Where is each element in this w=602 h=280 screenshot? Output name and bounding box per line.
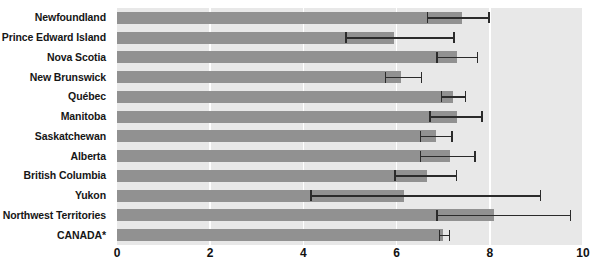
category-label: Québec bbox=[0, 91, 106, 102]
error-bar bbox=[427, 12, 490, 23]
error-bar-line bbox=[345, 37, 455, 39]
error-bar-cap-low bbox=[385, 72, 387, 83]
category-label: Nova Scotia bbox=[0, 52, 106, 63]
category-label: Northwest Territories bbox=[0, 210, 106, 221]
value-axis: 0246810 bbox=[117, 247, 583, 273]
plot-area bbox=[117, 8, 583, 245]
gridline-10 bbox=[582, 8, 584, 245]
x-tick-label: 0 bbox=[114, 247, 121, 259]
error-bar bbox=[429, 111, 483, 122]
x-tick-label: 6 bbox=[393, 247, 400, 259]
bar bbox=[117, 71, 401, 83]
error-bar bbox=[436, 52, 478, 63]
error-bar bbox=[439, 230, 451, 241]
bar bbox=[117, 150, 450, 162]
error-bar bbox=[345, 32, 455, 43]
category-label: Newfoundland bbox=[0, 12, 106, 23]
error-bar-line bbox=[385, 77, 422, 79]
error-bar-cap-high bbox=[449, 230, 451, 241]
error-bar-cap-low bbox=[436, 52, 438, 63]
bar bbox=[117, 170, 427, 182]
category-label: Saskatchewan bbox=[0, 131, 106, 142]
error-bar-line bbox=[436, 57, 478, 59]
error-bar-cap-low bbox=[310, 190, 312, 201]
error-bar-cap-high bbox=[477, 52, 479, 63]
error-bar-cap-high bbox=[451, 131, 453, 142]
x-tick-label: 2 bbox=[207, 247, 214, 259]
error-bar-cap-high bbox=[488, 12, 490, 23]
error-bar bbox=[441, 91, 467, 102]
error-bar-cap-low bbox=[436, 210, 438, 221]
error-bar-line bbox=[441, 96, 467, 98]
horizontal-bar-chart: NewfoundlandPrince Edward IslandNova Sco… bbox=[0, 0, 602, 280]
error-bar bbox=[394, 170, 457, 181]
error-bar-cap-low bbox=[394, 170, 396, 181]
error-bar-cap-low bbox=[429, 111, 431, 122]
error-bar-line bbox=[429, 116, 483, 118]
bar bbox=[117, 91, 453, 103]
error-bar bbox=[436, 210, 571, 221]
category-axis: NewfoundlandPrince Edward IslandNova Sco… bbox=[0, 8, 112, 245]
category-label: Prince Edward Island bbox=[0, 32, 106, 43]
category-label: Yukon bbox=[0, 190, 106, 201]
error-bar bbox=[420, 151, 476, 162]
error-bar-cap-high bbox=[456, 170, 458, 181]
error-bar-line bbox=[436, 215, 571, 217]
bar bbox=[117, 51, 457, 63]
error-bar-cap-high bbox=[421, 72, 423, 83]
error-bar bbox=[420, 131, 453, 142]
error-bar-cap-low bbox=[427, 12, 429, 23]
x-tick-label: 10 bbox=[576, 247, 589, 259]
error-bar-cap-high bbox=[453, 32, 455, 43]
category-label: New Brunswick bbox=[0, 72, 106, 83]
error-bar-line bbox=[310, 195, 541, 197]
error-bar-cap-high bbox=[465, 91, 467, 102]
error-bar-cap-low bbox=[441, 91, 443, 102]
x-tick-label: 8 bbox=[486, 247, 493, 259]
error-bar-cap-high bbox=[540, 190, 542, 201]
error-bar bbox=[310, 190, 541, 201]
error-bar-line bbox=[394, 175, 457, 177]
bar bbox=[117, 111, 457, 123]
error-bar bbox=[385, 72, 422, 83]
category-label: Alberta bbox=[0, 151, 106, 162]
error-bar-line bbox=[427, 17, 490, 19]
error-bar-cap-low bbox=[420, 131, 422, 142]
category-label: Manitoba bbox=[0, 111, 106, 122]
bar bbox=[117, 130, 436, 142]
error-bar-cap-low bbox=[345, 32, 347, 43]
error-bar-line bbox=[420, 156, 476, 158]
error-bar-line bbox=[420, 136, 453, 138]
error-bar-cap-high bbox=[570, 210, 572, 221]
category-label: CANADA* bbox=[0, 230, 106, 241]
error-bar-cap-low bbox=[439, 230, 441, 241]
bar bbox=[117, 12, 462, 24]
bar bbox=[117, 229, 443, 241]
error-bar-cap-high bbox=[474, 151, 476, 162]
error-bar-cap-low bbox=[420, 151, 422, 162]
category-label: British Columbia bbox=[0, 170, 106, 181]
x-tick-label: 4 bbox=[300, 247, 307, 259]
error-bar-cap-high bbox=[481, 111, 483, 122]
